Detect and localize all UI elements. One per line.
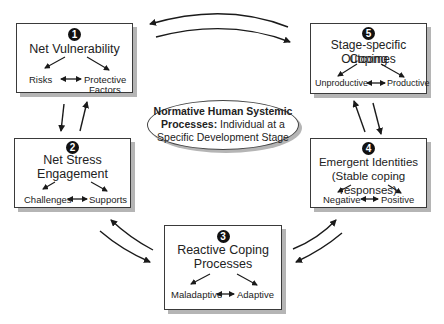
center-subtitle-line3: Specific Development Stage — [148, 131, 298, 144]
left-identity-label: Negative — [323, 194, 361, 205]
arrow-1-to-2 — [61, 104, 64, 131]
arrow-5-to-4 — [373, 103, 381, 134]
left-factor-label: Risks — [29, 74, 52, 85]
right-outcome-label: Productive — [387, 78, 430, 89]
arrow-3-to-4 — [293, 220, 336, 249]
right-factor-label: Supports — [89, 194, 127, 205]
right-coping-label: Adaptive — [237, 289, 274, 300]
box-net-vulnerability: 1 Net Vulnerability Risks Protective Fac… — [16, 23, 133, 93]
left-coping-label: Maladaptive — [171, 289, 222, 300]
center-title-line2: Processes: — [161, 118, 217, 130]
center-title-line1: Normative Human Systemic — [154, 105, 293, 117]
box-stage-specific-coping-outcomes: 5 Stage-specific Coping Outcomes Unprodu… — [310, 23, 427, 94]
arrow-2-to-3 — [100, 231, 150, 262]
right-factor-label-line2: Factors — [89, 84, 121, 95]
arrow-2-to-1 — [80, 102, 87, 131]
arrow-4-to-3 — [296, 233, 342, 262]
arrow-3-to-2 — [111, 220, 153, 250]
left-outcome-label: Unproductive — [315, 78, 368, 89]
center-ellipse: Normative Human Systemic Processes: Indi… — [147, 100, 299, 150]
box-emergent-identities: 4 Emergent Identities (Stable coping res… — [310, 138, 427, 208]
right-identity-label: Positive — [381, 194, 414, 205]
center-subtitle: Individual at a — [217, 118, 285, 130]
left-factor-label: Challenges — [24, 194, 72, 205]
arrow-4-to-5 — [354, 101, 365, 132]
arc-1-to-5 — [156, 29, 290, 42]
box-reactive-coping-processes: 3 Reactive Coping Processes Maladaptive … — [164, 225, 282, 310]
box-net-stress-engagement: 2 Net Stress Engagement Challenges Suppo… — [14, 138, 131, 208]
arc-5-to-1 — [150, 14, 288, 27]
